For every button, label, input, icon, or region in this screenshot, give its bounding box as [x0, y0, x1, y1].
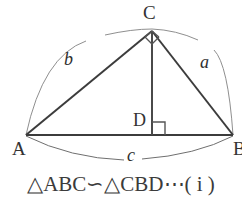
side-label-c: c	[127, 146, 135, 164]
upper-arc	[26, 41, 86, 135]
side-label-b: b	[64, 50, 73, 68]
upper-arc-segment-2	[105, 29, 152, 35]
vertex-label-B: B	[233, 139, 242, 158]
similarity-caption: △ABC∽△CBD⋯( i )	[0, 168, 242, 201]
lower-arc-segment-1	[26, 136, 124, 160]
vertex-label-C: C	[143, 3, 156, 22]
triangle-diagram-svg	[0, 0, 242, 168]
vertex-label-A: A	[12, 139, 26, 158]
vertex-label-D: D	[133, 111, 146, 129]
geometry-figure-page: C A B D b a c △ABC∽△CBD⋯( i )	[0, 0, 242, 201]
side-label-a: a	[200, 53, 209, 71]
side-CB	[152, 31, 233, 135]
right-angle-mark-at-D	[152, 122, 165, 135]
caption-text: △ABC∽△CBD⋯( i )	[27, 172, 215, 197]
lower-arc-segment-2	[142, 136, 233, 159]
